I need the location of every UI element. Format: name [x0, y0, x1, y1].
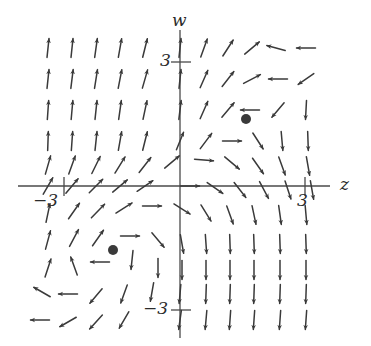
- field-arrow: [285, 181, 291, 199]
- field-arrow: [47, 39, 49, 58]
- field-arrow: [200, 101, 208, 118]
- field-arrow: [245, 42, 260, 54]
- field-arrow: [230, 235, 231, 254]
- field-arrow: [143, 39, 148, 57]
- field-arrow: [306, 285, 307, 304]
- tick-label-w-negative: −3: [143, 300, 168, 317]
- field-arrow: [195, 159, 214, 161]
- field-arrow: [205, 235, 206, 254]
- field-arrow: [95, 70, 98, 89]
- field-arrow: [225, 157, 240, 169]
- lower-left-equilibrium: [108, 245, 118, 255]
- field-arrow: [222, 103, 234, 118]
- field-arrow: [179, 70, 181, 89]
- tick-label-z-positive: 3: [297, 192, 308, 209]
- field-arrow: [95, 101, 97, 120]
- field-arrow: [306, 235, 307, 254]
- field-arrow: [279, 311, 280, 330]
- field-arrow: [119, 101, 122, 120]
- field-arrow: [279, 206, 282, 225]
- field-arrow: [234, 183, 246, 198]
- field-arrow: [47, 101, 48, 120]
- field-arrow: [200, 70, 208, 87]
- field-arrow: [254, 285, 255, 304]
- field-arrow: [118, 39, 121, 58]
- field-arrow: [45, 156, 50, 174]
- field-arrow: [119, 312, 129, 328]
- field-arrow: [205, 311, 207, 330]
- field-arrow: [310, 181, 313, 200]
- field-arrow: [253, 158, 264, 174]
- vector-field-canvas: [0, 0, 371, 346]
- w-axis-label: w: [172, 12, 187, 29]
- field-arrow: [71, 132, 72, 151]
- field-arrow: [118, 70, 122, 89]
- field-arrow: [201, 39, 208, 57]
- field-arrow: [115, 157, 125, 173]
- field-arrow: [131, 251, 133, 270]
- field-arrow: [165, 156, 180, 168]
- field-arrow: [93, 230, 104, 246]
- field-arrow: [95, 39, 98, 58]
- field-arrow: [118, 132, 121, 151]
- field-arrow: [305, 311, 306, 330]
- field-arrow: [142, 70, 147, 88]
- field-arrow: [244, 75, 261, 84]
- field-arrow: [306, 157, 309, 176]
- field-arrow: [71, 39, 73, 58]
- field-arrow: [279, 157, 286, 175]
- field-arrow: [222, 72, 234, 87]
- field-arrow: [272, 103, 284, 118]
- field-arrow: [60, 317, 76, 327]
- field-arrow: [253, 133, 263, 149]
- field-arrow: [71, 101, 73, 120]
- field-arrow: [267, 46, 285, 51]
- field-arrow: [207, 183, 223, 194]
- field-arrow: [180, 235, 183, 254]
- field-arrow: [116, 203, 132, 213]
- z-axis-label: z: [340, 176, 349, 193]
- field-arrow: [45, 259, 51, 277]
- field-arrow: [229, 311, 230, 330]
- field-arrow: [227, 206, 234, 224]
- field-arrow: [47, 70, 49, 89]
- field-arrow: [200, 133, 211, 148]
- field-arrow: [308, 132, 309, 151]
- field-arrow: [46, 231, 51, 249]
- field-arrow: [34, 287, 50, 297]
- field-arrow: [70, 230, 79, 247]
- upper-right-equilibrium: [241, 114, 251, 124]
- field-arrow: [280, 285, 281, 304]
- field-arrow: [206, 285, 207, 304]
- field-arrow: [260, 182, 269, 199]
- field-arrow: [91, 204, 104, 218]
- direction-field-figure: w z 3 −3 3 −3: [0, 0, 371, 346]
- field-arrow: [69, 203, 80, 219]
- field-arrow: [254, 235, 255, 254]
- arrows-group: [31, 39, 316, 330]
- field-arrow: [298, 74, 314, 85]
- field-arrow: [48, 132, 49, 151]
- field-arrow: [280, 235, 281, 254]
- field-arrow: [252, 206, 256, 225]
- field-arrow: [92, 156, 100, 173]
- field-arrow: [174, 204, 190, 214]
- tick-label-w-positive: 3: [160, 52, 171, 69]
- field-arrow: [90, 315, 103, 329]
- field-arrow: [253, 311, 254, 330]
- field-arrow: [69, 156, 76, 174]
- field-arrow: [230, 285, 231, 304]
- field-arrow: [143, 101, 147, 120]
- field-arrow: [152, 233, 164, 248]
- tick-label-z-negative: −3: [33, 192, 58, 209]
- field-arrow: [71, 70, 73, 89]
- field-arrow: [306, 101, 307, 120]
- field-arrow: [223, 40, 233, 56]
- field-arrow: [281, 132, 283, 151]
- field-arrow: [121, 285, 128, 303]
- field-arrow: [179, 39, 181, 58]
- field-arrow: [143, 132, 148, 150]
- axes-group: [18, 30, 330, 338]
- field-arrow: [71, 257, 78, 275]
- field-arrow: [201, 205, 211, 221]
